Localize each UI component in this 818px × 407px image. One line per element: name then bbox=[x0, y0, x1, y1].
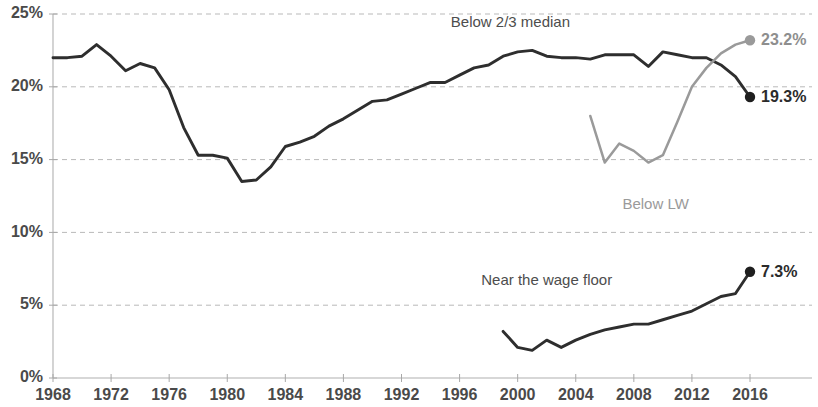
end-value-label-below-lw: 23.2% bbox=[761, 31, 806, 48]
x-axis-label-1980: 1980 bbox=[209, 386, 245, 403]
x-axis-label-1976: 1976 bbox=[151, 386, 187, 403]
series-annotations: Below 2/3 medianBelow LWNear the wage fl… bbox=[451, 13, 690, 288]
y-axis-label-10: 10% bbox=[11, 223, 43, 240]
y-axis-label-5: 5% bbox=[20, 295, 43, 312]
line-chart: 0%5%10%15%20%25% 19681972197619801984198… bbox=[0, 0, 818, 407]
series-endpoints bbox=[745, 35, 755, 277]
axes bbox=[49, 14, 812, 382]
y-axis-label-0: 0% bbox=[20, 368, 43, 385]
x-axis-label-2000: 2000 bbox=[500, 386, 536, 403]
series-annotation-near-the-wage-floor: Near the wage floor bbox=[481, 271, 612, 288]
x-axis-label-2012: 2012 bbox=[674, 386, 710, 403]
chart-container: 0%5%10%15%20%25% 19681972197619801984198… bbox=[0, 0, 818, 407]
series-end-labels: 19.3%23.2%7.3% bbox=[761, 31, 806, 280]
end-value-label-near-the-wage-floor: 7.3% bbox=[761, 263, 797, 280]
series-annotation-below-lw: Below LW bbox=[622, 195, 689, 212]
x-axis-label-1972: 1972 bbox=[93, 386, 129, 403]
end-value-label-below-2-3-median: 19.3% bbox=[761, 88, 806, 105]
x-axis-label-1968: 1968 bbox=[35, 386, 71, 403]
x-axis-tick-labels: 1968197219761980198419881992199620002004… bbox=[35, 386, 768, 403]
series-line-below-lw bbox=[590, 40, 750, 162]
y-axis-label-15: 15% bbox=[11, 150, 43, 167]
endpoint-marker-near-the-wage-floor bbox=[745, 267, 755, 277]
series-annotation-below-2-3-median: Below 2/3 median bbox=[451, 13, 570, 30]
y-axis-label-20: 20% bbox=[11, 77, 43, 94]
x-axis-label-1992: 1992 bbox=[384, 386, 420, 403]
x-axis-label-2008: 2008 bbox=[616, 386, 652, 403]
x-axis-label-2016: 2016 bbox=[732, 386, 768, 403]
y-axis-tick-labels: 0%5%10%15%20%25% bbox=[11, 4, 43, 385]
x-axis-label-1996: 1996 bbox=[442, 386, 478, 403]
x-axis-label-2004: 2004 bbox=[558, 386, 594, 403]
x-axis-label-1984: 1984 bbox=[268, 386, 304, 403]
x-axis-label-1988: 1988 bbox=[326, 386, 362, 403]
endpoint-marker-below-lw bbox=[745, 35, 755, 45]
y-axis-label-25: 25% bbox=[11, 4, 43, 21]
endpoint-marker-below-2-3-median bbox=[745, 92, 755, 102]
